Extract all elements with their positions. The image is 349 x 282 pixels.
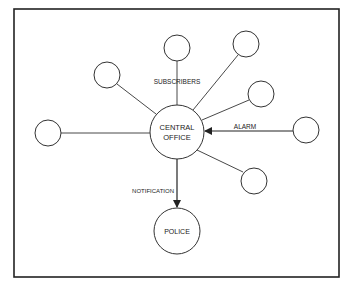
subscriber-node-top-right: [233, 31, 259, 57]
subscriber-node-lower-right: [241, 168, 267, 194]
notification-label: NOTIFICATION: [132, 188, 174, 194]
police-label: POLICE: [164, 228, 190, 235]
central-office-label-line1: CENTRAL: [159, 123, 194, 132]
alarm-network-diagram: CENTRAL OFFICE POLICE SUBSCRIBERS ALARM …: [0, 0, 349, 282]
subscribers-label: SUBSCRIBERS: [154, 78, 201, 85]
central-office-node: [150, 105, 204, 159]
subscriber-node-right-mid: [248, 81, 274, 107]
subscriber-node-left: [35, 120, 61, 146]
central-office-label-line2: OFFICE: [163, 133, 191, 142]
subscriber-node-top: [164, 35, 190, 61]
subscriber-node-upper-left: [94, 62, 120, 88]
subscriber-node-alarm-source: [293, 117, 319, 143]
alarm-label: ALARM: [234, 123, 256, 130]
